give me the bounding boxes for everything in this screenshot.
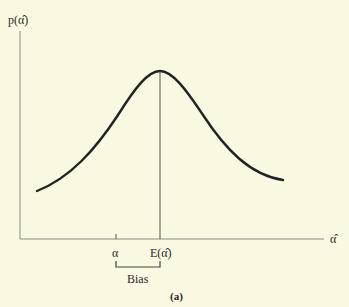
bias-bracket — [116, 261, 160, 267]
y-axis-label: p(α̂) — [8, 13, 28, 27]
bias-diagram: p(α̂) α̂ α E(α̂) Bias (a) — [0, 0, 349, 307]
figure-caption: (a) — [170, 290, 183, 303]
expectation-tick-label: E(α̂) — [150, 246, 172, 260]
bias-label: Bias — [127, 272, 149, 286]
x-axis-label: α̂ — [330, 232, 338, 246]
alpha-tick-label: α — [112, 246, 119, 260]
